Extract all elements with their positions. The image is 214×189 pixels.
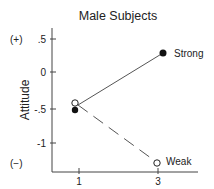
y-tick-label: 0 — [40, 67, 46, 78]
y-tick-label: -.5 — [34, 104, 46, 115]
filled-circle-marker — [72, 107, 78, 113]
x-tick-label: 3 — [155, 176, 161, 187]
weak-label: Weak — [166, 156, 192, 167]
y-tick-label: -1 — [37, 138, 46, 149]
weak-end-marker — [154, 160, 160, 166]
chart: Male Subjects .5 0 -.5 -1 (+) (−) Attitu… — [0, 0, 214, 189]
strong-label: Strong — [174, 48, 203, 59]
open-circle-marker — [72, 100, 78, 106]
positive-annotation: (+) — [10, 34, 23, 45]
y-axis-label: Attitude — [18, 79, 32, 120]
strong-end-marker — [160, 50, 167, 57]
x-tick-label: 1 — [76, 176, 82, 187]
negative-annotation: (−) — [10, 158, 23, 169]
chart-title: Male Subjects — [79, 9, 158, 23]
strong-line — [78, 53, 163, 105]
y-tick-label: .5 — [38, 34, 47, 45]
weak-line — [78, 105, 155, 161]
